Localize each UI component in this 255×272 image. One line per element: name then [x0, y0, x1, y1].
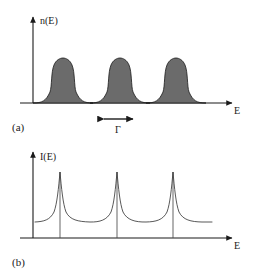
panel-a-tag: (a) [12, 121, 25, 134]
panel-a-peak-2 [90, 58, 150, 103]
panel-a-peak-3 [146, 58, 206, 103]
panel-b-x-axis-label: E [234, 240, 240, 251]
gamma-label: Γ [115, 124, 121, 135]
panel-a-x-axis-label: E [234, 105, 240, 116]
panel-a-peak-1 [33, 58, 93, 103]
figure-container: Γ n(E) E (a) [0, 0, 255, 272]
panel-a: Γ n(E) E (a) [0, 0, 255, 136]
panel-b-y-axis-label: I(E) [40, 151, 56, 163]
panel-b-tag: (b) [12, 256, 25, 269]
panel-a-plot: Γ n(E) E (a) [0, 0, 255, 136]
panel-b: I(E) E (b) [0, 136, 255, 272]
panel-a-y-axis-label: n(E) [40, 15, 58, 27]
panel-b-plot: I(E) E (b) [0, 136, 255, 272]
panel-b-lorentzian-curve [35, 172, 212, 222]
